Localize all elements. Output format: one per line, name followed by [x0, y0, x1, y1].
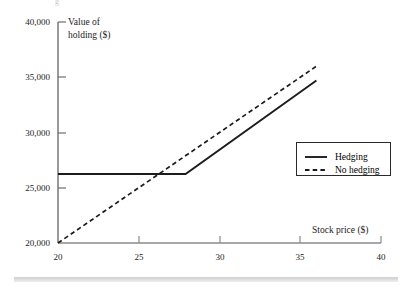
legend-swatch-dashed-icon — [304, 165, 328, 175]
x-tick-label-25: 25 — [125, 252, 153, 262]
x-tick-label-30: 30 — [206, 252, 234, 262]
legend-label-no-hedging: No hedging — [335, 165, 380, 175]
x-axis-title: Stock price ($) — [312, 225, 368, 236]
legend-entry-no-hedging: No hedging — [304, 160, 380, 178]
y-tick-label-40000: 40,000 — [6, 17, 50, 27]
x-tick-label-20: 20 — [44, 252, 72, 262]
page-bottom-rule — [14, 277, 398, 282]
y-tick-label-30000: 30,000 — [6, 128, 50, 138]
y-tick-label-20000: 20,000 — [6, 238, 50, 248]
y-tick-marks — [58, 22, 66, 188]
legend: Hedging No hedging — [296, 142, 391, 176]
y-axis-title-line1: Value of — [68, 17, 100, 28]
x-tick-label-35: 35 — [286, 252, 314, 262]
chart-figure: g 40,000 35,000 30,000 25,000 20,000 20 … — [0, 0, 408, 288]
y-tick-label-35000: 35,000 — [6, 72, 50, 82]
series-hedging — [58, 81, 316, 174]
y-tick-label-25000: 25,000 — [6, 183, 50, 193]
series-no-hedging — [58, 66, 316, 243]
x-tick-marks — [139, 236, 381, 243]
y-axis-title-line2: holding ($) — [68, 30, 110, 41]
x-tick-label-40: 40 — [367, 252, 395, 262]
